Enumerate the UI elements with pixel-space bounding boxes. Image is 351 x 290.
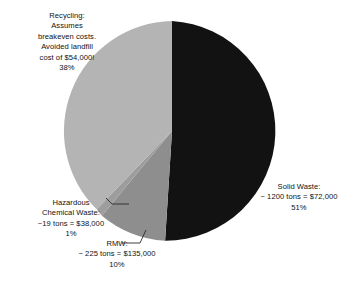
slice-label-rmw: RMW: ~ 225 tons = $135,000 10% (57, 239, 177, 270)
recycling-label-line-5: cost of $54,000! (8, 53, 126, 63)
slice-label-solid-waste: Solid Waste: ~ 1200 tons = $72,000 51% (248, 182, 350, 213)
rmw-label-line-2: ~ 225 tons = $135,000 (57, 249, 177, 259)
pie-chart-page: Recycling: Assumes breakeven costs. Avoi… (0, 0, 351, 290)
slice-label-hazardous-chemical-waste: Hazardous Chemical Waste: ~19 tons = $38… (11, 198, 131, 240)
recycling-label-line-2: Assumes (8, 21, 126, 31)
solid-waste-label-line-2: ~ 1200 tons = $72,000 (248, 192, 350, 202)
rmw-label-percent: 10% (57, 260, 177, 270)
recycling-label-percent: 38% (8, 63, 126, 73)
hazardous-label-line-3: ~19 tons = $38,000 (11, 219, 131, 229)
hazardous-label-line-2: Chemical Waste: (11, 208, 131, 218)
recycling-label-line-3: breakeven costs. (8, 32, 126, 42)
recycling-label-line-4: Avoided landfill (8, 42, 126, 52)
recycling-label-line-1: Recycling: (8, 11, 126, 21)
hazardous-label-line-1: Hazardous (11, 198, 131, 208)
slice-label-recycling: Recycling: Assumes breakeven costs. Avoi… (8, 11, 126, 73)
waste-cost-pie-chart: Recycling: Assumes breakeven costs. Avoi… (0, 0, 351, 290)
solid-waste-label-line-1: Solid Waste: (248, 182, 350, 192)
rmw-label-line-1: RMW: (57, 239, 177, 249)
solid-waste-label-percent: 51% (248, 203, 350, 213)
